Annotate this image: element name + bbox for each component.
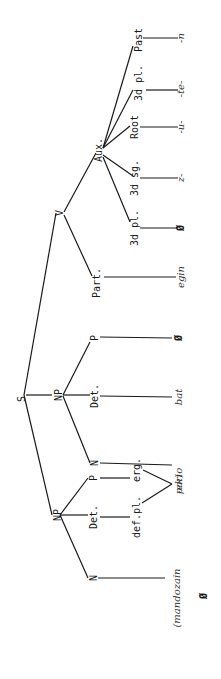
node-def-pl: def.pl.: [131, 496, 142, 538]
node-aux-past: Past: [133, 28, 144, 52]
node-np2-det: Det.: [89, 384, 100, 408]
tree-labels: S NP N Det. P def.pl. erg. (mandozain -e…: [16, 28, 209, 628]
node-np1-det: Det.: [88, 505, 99, 529]
morph-u: -u-: [175, 120, 186, 134]
morph-n: -n: [175, 33, 186, 43]
node-aux-3dpl-2: 3d pl.: [133, 65, 144, 101]
node-np1-n: N: [88, 575, 99, 581]
word-pario: pario: [173, 468, 184, 494]
node-aux-3dsg: 3d sg.: [129, 160, 140, 196]
node-aux-3dpl: 3d pl.: [129, 210, 140, 246]
node-s: S: [16, 396, 27, 402]
node-np1-p: P: [88, 475, 99, 481]
node-aux: Aux.: [93, 138, 104, 162]
node-v: V: [54, 210, 65, 216]
word-mandozain: (mandozain: [171, 568, 182, 627]
word-bat: bat: [173, 388, 184, 405]
node-np2-p: P: [89, 335, 100, 341]
node-np1: NP: [52, 509, 63, 521]
node-np2-n: N: [89, 460, 100, 466]
morph-te: -te-: [175, 80, 186, 97]
syntax-tree-diagram: S NP N Det. P def.pl. erg. (mandozain -e…: [0, 0, 221, 679]
word-egin: egin: [175, 266, 186, 288]
morph-zero: Ø: [175, 225, 186, 232]
node-np2: NP: [53, 389, 64, 401]
node-aux-root: Root: [129, 115, 140, 139]
zero-np1: Ø: [198, 593, 209, 600]
zero-np2-p: Ø: [173, 335, 184, 342]
node-part: Part.: [91, 268, 102, 298]
node-erg: erg.: [131, 458, 142, 482]
tree-edges: [24, 38, 178, 578]
morph-z: z-: [175, 173, 186, 183]
